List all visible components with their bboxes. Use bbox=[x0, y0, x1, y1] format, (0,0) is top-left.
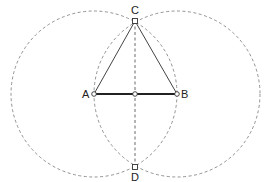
point-c bbox=[133, 19, 138, 24]
point-a bbox=[92, 92, 97, 97]
segment-ac bbox=[94, 21, 135, 94]
label-b: B bbox=[181, 88, 188, 100]
label-a: A bbox=[82, 88, 90, 100]
point-midpoint bbox=[133, 92, 138, 97]
label-c: C bbox=[131, 4, 139, 16]
point-b bbox=[175, 92, 180, 97]
point-d bbox=[133, 165, 138, 170]
label-d: D bbox=[131, 171, 139, 182]
segment-bc bbox=[135, 21, 177, 94]
diagram-canvas: A B C D bbox=[0, 0, 267, 182]
